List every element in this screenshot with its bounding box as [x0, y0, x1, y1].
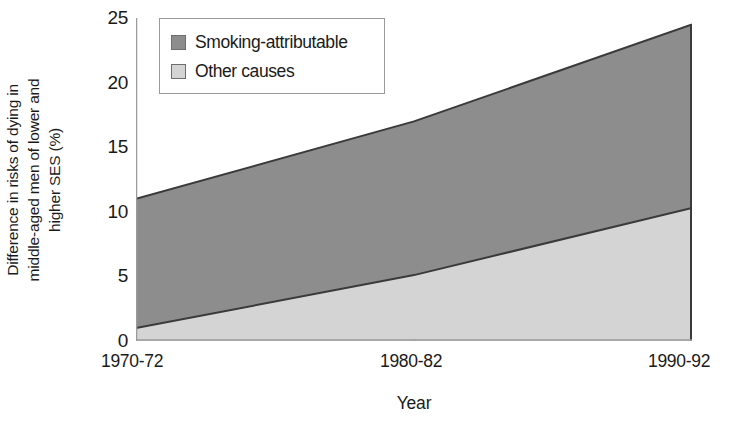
y-axis-title-line-2: middle-aged men of lower and — [23, 79, 44, 282]
chart-legend: Smoking-attributable Other causes — [159, 18, 385, 94]
legend-item-other-causes[interactable]: Other causes — [171, 57, 384, 86]
x-axis-title-text: Year — [397, 393, 432, 413]
y-tick-label-15: 15 — [84, 137, 128, 156]
y-tick-label-25: 25 — [84, 8, 128, 27]
y-axis-title-text: Difference in risks of dying in middle-a… — [2, 79, 65, 282]
legend-label-other-causes: Other causes — [195, 62, 294, 81]
x-axis-title: Year — [0, 393, 736, 414]
y-tick-label-0: 0 — [84, 331, 128, 350]
legend-swatch-other-causes — [171, 64, 186, 79]
y-axis-title-line-1: Difference in risks of dying in — [2, 79, 23, 282]
x-tick-label-1990-92: 1990-92 — [648, 352, 710, 370]
x-tick-label-1980-82: 1980-82 — [380, 352, 442, 370]
y-tick-label-5: 5 — [84, 266, 128, 285]
legend-label-smoking-attributable: Smoking-attributable — [195, 33, 348, 52]
y-axis-tick-labels: 25 20 15 10 5 0 — [84, 0, 128, 360]
chart-figure: Difference in risks of dying in middle-a… — [0, 0, 736, 437]
legend-item-smoking-attributable[interactable]: Smoking-attributable — [171, 28, 384, 57]
legend-swatch-smoking-attributable — [171, 35, 186, 50]
y-tick-label-10: 10 — [84, 202, 128, 221]
y-axis-title: Difference in risks of dying in middle-a… — [0, 0, 66, 360]
y-axis-title-line-3: higher SES (%) — [44, 79, 65, 282]
y-tick-label-20: 20 — [84, 73, 128, 92]
x-tick-label-1970-72: 1970-72 — [101, 352, 163, 370]
